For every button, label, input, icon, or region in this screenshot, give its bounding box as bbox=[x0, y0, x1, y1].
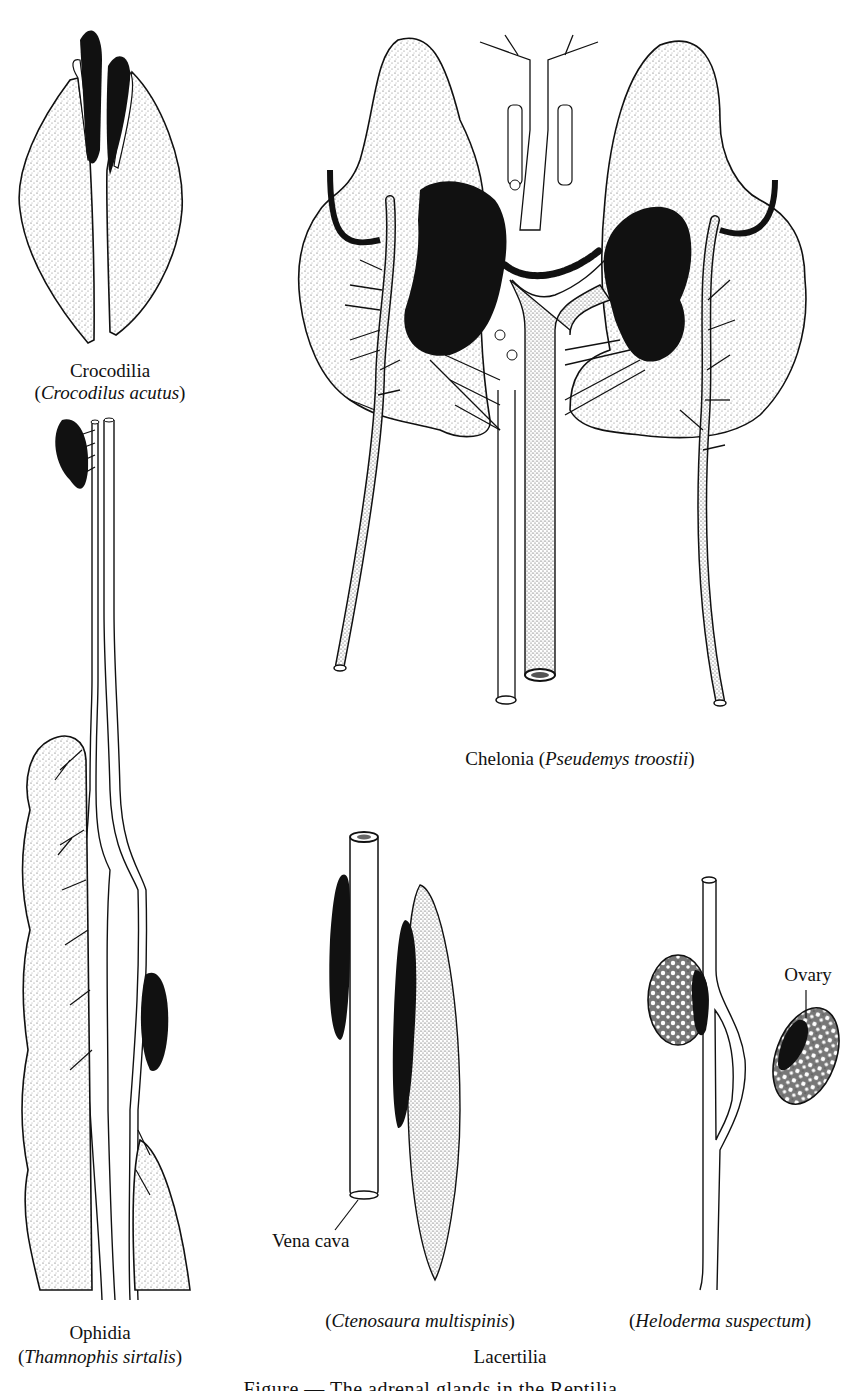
chelonia-group-label: Chelonia bbox=[465, 748, 534, 769]
adrenal-left bbox=[329, 874, 350, 1040]
ctenosaura-species-name: Ctenosaura multispinis bbox=[332, 1310, 509, 1331]
heloderma-illustration bbox=[620, 870, 840, 1300]
chelonia-label: Chelonia (Pseudemys troostii) bbox=[420, 748, 740, 770]
ctenosaura-illustration bbox=[280, 810, 520, 1300]
chelonia-illustration bbox=[280, 0, 840, 740]
figure-caption: Figure — The adrenal glands in the Repti… bbox=[0, 1378, 861, 1391]
adrenal-anterior bbox=[55, 419, 88, 488]
ophidia-group-label: Ophidia bbox=[0, 1322, 200, 1344]
ctenosaura-species-label: (Ctenosaura multispinis) bbox=[300, 1310, 540, 1332]
heloderma-species-name: Heloderma suspectum bbox=[635, 1310, 804, 1331]
ophidia-species-label: (Thamnophis sirtalis) bbox=[0, 1346, 200, 1368]
ophidia-illustration bbox=[0, 410, 220, 1300]
figure-caption-text: Figure — The adrenal glands in the Repti… bbox=[0, 1378, 861, 1391]
chelonia-species-name: Pseudemys troostii bbox=[545, 748, 688, 769]
vena-cava-label: Vena cava bbox=[272, 1230, 382, 1252]
adrenal-posterior bbox=[141, 973, 168, 1071]
adrenal-left bbox=[404, 181, 506, 355]
heloderma-species-label: (Heloderma suspectum) bbox=[600, 1310, 840, 1332]
crocodilia-group-label: Crocodilia bbox=[0, 360, 220, 382]
ophidia-species-name: Thamnophis sirtalis bbox=[24, 1346, 176, 1367]
vena-cava-vessel bbox=[350, 835, 378, 1195]
crocodilia-species-name: Crocodilus acutus bbox=[41, 382, 179, 403]
ovary-label: Ovary bbox=[778, 964, 838, 986]
crocodilia-species-label: (Crocodilus acutus) bbox=[0, 382, 220, 404]
lacertilia-group-label: Lacertilia bbox=[430, 1346, 590, 1368]
crocodilia-illustration bbox=[0, 0, 200, 350]
